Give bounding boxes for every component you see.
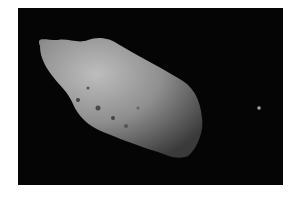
asteroid-body (39, 38, 202, 158)
moon (257, 106, 261, 110)
space-photo (18, 8, 283, 185)
asteroid-scene (18, 8, 283, 185)
